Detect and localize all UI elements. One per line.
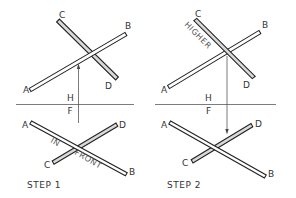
label-f: F <box>206 106 211 116</box>
skew-lines-visibility-diagram: C B A D H F A D C B IN FRONT STEP 1 <box>0 0 296 198</box>
label-a: A <box>161 120 168 130</box>
label-d: D <box>243 80 250 90</box>
label-a: A <box>22 120 29 130</box>
arrow-down-icon <box>225 129 228 135</box>
rod-ab-front <box>169 121 266 178</box>
label-b: B <box>125 21 131 31</box>
label-c: C <box>182 158 188 168</box>
step-2-top-view: C B A D HIGHER <box>161 9 268 135</box>
label-c: C <box>44 160 50 170</box>
label-h: H <box>205 93 212 103</box>
label-a: A <box>161 85 168 95</box>
label-f: F <box>68 106 73 116</box>
label-d: D <box>105 81 112 91</box>
rod-cd-front <box>191 124 253 163</box>
label-b: B <box>262 20 268 30</box>
label-d: D <box>119 120 126 130</box>
step-1-front-view: A D C B IN FRONT <box>22 120 135 177</box>
rod-cd <box>194 18 255 78</box>
step-1-panel: C B A D H F A D C B IN FRONT STEP 1 <box>16 10 135 190</box>
label-h: H <box>67 93 74 103</box>
step-1-label: STEP 1 <box>27 180 61 190</box>
step-2-panel: C B A D HIGHER H F A D C B STEP 2 <box>155 9 276 190</box>
step-2-label: STEP 2 <box>167 180 201 190</box>
step-2-front-view: A D C B <box>161 119 274 179</box>
label-c: C <box>195 9 201 19</box>
label-c: C <box>59 10 65 20</box>
label-d: D <box>255 119 262 129</box>
label-a: A <box>23 85 30 95</box>
step-1-top-view: C B A D <box>23 10 131 123</box>
step-2-fold-line: H F <box>155 93 276 116</box>
label-b: B <box>129 167 135 177</box>
step-1-fold-line: H F <box>16 93 134 116</box>
label-b: B <box>268 169 274 179</box>
